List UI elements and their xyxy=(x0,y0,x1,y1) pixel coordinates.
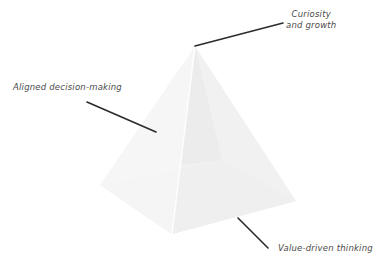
leader-line-bottom xyxy=(238,218,268,248)
leader-line-top xyxy=(195,23,283,46)
label-top-line2: and growth xyxy=(286,20,336,31)
label-value-driven-thinking: Value-driven thinking xyxy=(278,243,373,254)
label-top-line1: Curiosity xyxy=(286,9,336,20)
leader-line-left xyxy=(87,102,156,132)
pyramid-diagram: Curiosity and growth Aligned decision-ma… xyxy=(0,0,387,271)
pyramid-graphic xyxy=(0,0,387,271)
label-aligned-decision-making: Aligned decision-making xyxy=(13,82,122,93)
label-curiosity-and-growth: Curiosity and growth xyxy=(286,9,336,31)
